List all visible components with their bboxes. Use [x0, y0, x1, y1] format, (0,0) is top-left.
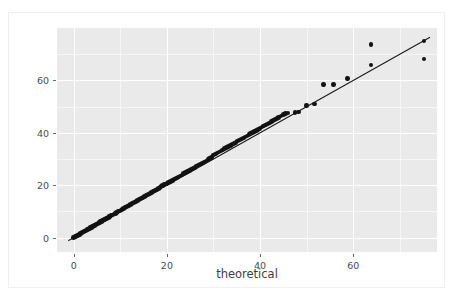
y-tick-mark-40 [53, 133, 56, 134]
x-tick-mark-0 [74, 254, 75, 257]
y-tick-mark-20 [53, 185, 56, 186]
data-point [422, 39, 427, 44]
data-point [286, 111, 291, 116]
data-point [321, 82, 326, 87]
data-points [57, 28, 437, 252]
data-point [345, 76, 350, 81]
plot-panel [57, 28, 437, 252]
y-tick-label-0: 0 [25, 232, 49, 243]
y-tick-mark-0 [53, 238, 56, 239]
data-point [422, 57, 427, 62]
x-tick-mark-60 [353, 254, 354, 257]
y-tick-label-40: 40 [25, 127, 49, 138]
data-point [296, 110, 301, 115]
data-point [369, 63, 374, 68]
x-tick-mark-20 [167, 254, 168, 257]
y-tick-label-60: 60 [25, 75, 49, 86]
y-tick-label-20: 20 [25, 180, 49, 191]
y-tick-mark-60 [53, 80, 56, 81]
data-point [312, 102, 317, 107]
x-tick-mark-40 [260, 254, 261, 257]
qq-plot-figure: 02040600204060 theoretical sample [0, 0, 454, 306]
data-point [331, 82, 336, 87]
x-axis-label: theoretical [57, 267, 437, 281]
data-point [304, 103, 309, 108]
data-point [369, 42, 374, 47]
